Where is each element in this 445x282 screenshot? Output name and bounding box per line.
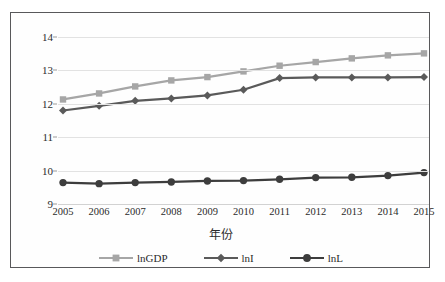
data-point-marker <box>240 177 247 184</box>
series-layer <box>58 37 429 204</box>
x-axis-tick-label: 2013 <box>341 206 362 217</box>
legend-label: lnGDP <box>137 252 168 264</box>
y-axis-tick-mark <box>53 170 57 171</box>
data-point-marker <box>203 91 211 99</box>
gridline <box>58 171 429 172</box>
data-point-marker <box>59 106 67 114</box>
data-point-marker <box>168 77 174 83</box>
data-point-marker <box>420 73 428 81</box>
gridline <box>58 37 429 38</box>
data-point-marker <box>384 73 392 81</box>
data-point-marker <box>276 74 284 82</box>
x-axis-tick-label: 2012 <box>305 206 326 217</box>
data-point-marker <box>312 174 319 181</box>
data-point-marker <box>348 174 355 181</box>
legend-item-lnI[interactable]: lnI <box>204 252 254 264</box>
data-point-marker <box>240 86 248 94</box>
y-axis-tick-label: 14 <box>42 31 53 43</box>
x-axis: 2005200620072008200920102011201220132014… <box>58 206 429 222</box>
data-point-marker <box>276 176 283 183</box>
y-axis-tick-mark <box>53 204 57 205</box>
data-point-marker <box>276 63 282 69</box>
legend-item-lnL[interactable]: lnL <box>290 252 343 264</box>
chart-figure: 91011121314 2005200620072008200920102011… <box>10 12 430 268</box>
x-axis-tick-label: 2015 <box>414 206 435 217</box>
x-axis-tick-label: 2006 <box>89 206 110 217</box>
y-axis-tick-mark <box>53 103 57 104</box>
legend-label: lnL <box>328 252 343 264</box>
gridline <box>58 137 429 138</box>
legend-swatch-square-icon <box>99 252 133 264</box>
y-axis-tick-label: 10 <box>42 165 53 177</box>
y-axis: 91011121314 <box>21 37 57 204</box>
plot-area <box>58 37 429 204</box>
data-point-marker <box>95 180 102 187</box>
data-point-marker <box>204 177 211 184</box>
data-point-marker <box>168 178 175 185</box>
x-axis-tick-label: 2011 <box>269 206 290 217</box>
data-point-marker <box>385 52 391 58</box>
y-axis-tick-label: 13 <box>42 64 53 76</box>
data-point-marker <box>313 59 319 65</box>
data-point-marker <box>132 83 138 89</box>
x-axis-tick-label: 2005 <box>53 206 74 217</box>
series-lnL <box>59 169 427 187</box>
data-point-marker <box>60 96 66 102</box>
data-point-marker <box>349 55 355 61</box>
data-point-marker <box>132 179 139 186</box>
gridline <box>58 70 429 71</box>
legend-item-lnGDP[interactable]: lnGDP <box>99 252 168 264</box>
series-lnI <box>59 73 428 114</box>
legend-label: lnI <box>242 252 254 264</box>
y-axis-tick-mark <box>53 137 57 138</box>
gridline <box>58 104 429 105</box>
data-point-marker <box>384 172 391 179</box>
x-axis-tick-label: 2014 <box>377 206 398 217</box>
x-axis-tick-label: 2009 <box>197 206 218 217</box>
data-point-marker <box>59 179 66 186</box>
chart-legend: lnGDPlnIlnL <box>11 252 431 264</box>
y-axis-tick-label: 12 <box>42 98 53 110</box>
data-point-marker <box>348 73 356 81</box>
legend-swatch-diamond-icon <box>204 252 238 264</box>
gridline <box>58 204 429 205</box>
legend-swatch-circle-icon <box>290 252 324 264</box>
data-point-marker <box>167 94 175 102</box>
y-axis-tick-mark <box>53 37 57 38</box>
x-axis-tick-label: 2007 <box>125 206 146 217</box>
y-axis-tick-mark <box>53 70 57 71</box>
data-point-marker <box>96 90 102 96</box>
y-axis-tick-label: 11 <box>42 131 53 143</box>
data-point-marker <box>204 74 210 80</box>
series-line <box>63 77 424 110</box>
data-point-marker <box>421 50 427 56</box>
data-point-marker <box>240 68 246 74</box>
data-point-marker <box>312 73 320 81</box>
x-axis-title: 年份 <box>11 225 431 243</box>
x-axis-tick-label: 2008 <box>161 206 182 217</box>
x-axis-tick-label: 2010 <box>233 206 254 217</box>
